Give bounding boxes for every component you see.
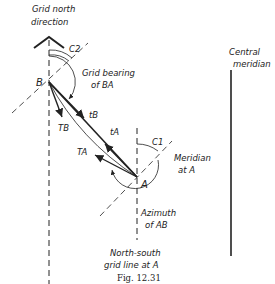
c2-label: C2 [69,44,80,54]
ta-label: tA [110,127,119,137]
azimuth-label: Azimuth [140,208,176,218]
meridian-a [100,141,172,216]
point-a-label: A [140,179,148,190]
tb-label: tB [89,110,98,120]
diagram-figure: Grid north direction C2 B Grid bearing o… [0,0,275,284]
figure-caption: Fig. 12.31 [117,273,161,283]
TA-arrow [95,155,137,177]
tb-arrow [49,82,84,118]
central-meridian-label-2: meridian [233,59,271,69]
grid-bearing-label-2: of BA [91,80,114,90]
meridian-a-label: Meridian [174,153,211,163]
TB-arrow [49,82,62,117]
azimuth-label-2: of AB [145,220,168,230]
point-b-label: B [36,77,43,88]
grid-north-label-2: direction [31,17,68,27]
central-meridian-label: Central [229,47,261,57]
meridian-a-label-2: at A [178,165,195,175]
grid-bearing-label: Grid bearing [82,68,136,78]
ns-grid-label: North-south [110,248,161,258]
c1-label: C1 [152,137,163,147]
diagram-canvas: Grid north direction C2 B Grid bearing o… [0,0,275,284]
TA-label: TA [77,147,87,157]
TB-label: TB [58,123,69,133]
ns-grid-label-2: grid line at A [104,260,159,270]
grid-north-label: Grid north [32,4,75,14]
ta-arrow [105,144,137,177]
